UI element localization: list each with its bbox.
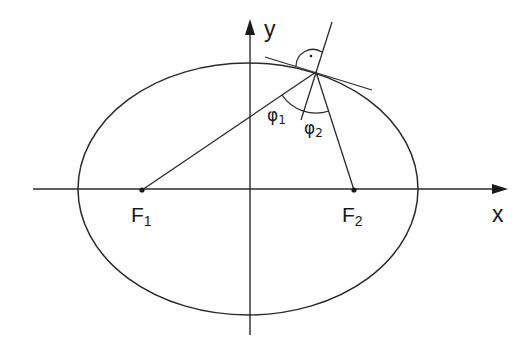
y-axis-label: y [264, 18, 276, 41]
y-axis-arrow-icon [245, 19, 255, 35]
focus-label-2: F2 [342, 204, 363, 228]
angle-label-phi-1: φ1 [267, 107, 286, 126]
focus-point-2 [351, 187, 356, 192]
x-axis-arrow-icon [492, 184, 508, 194]
angle-label-phi-2: φ2 [304, 120, 323, 139]
x-axis-label: x [492, 203, 504, 226]
right-angle-dot [310, 55, 313, 58]
ellipse-diagram [0, 0, 531, 351]
focus-point-1 [139, 187, 144, 192]
right-angle-arc [296, 49, 322, 66]
focus-label-1: F1 [131, 204, 152, 228]
focal-radius-1 [142, 72, 316, 190]
tangent-line [265, 57, 372, 90]
